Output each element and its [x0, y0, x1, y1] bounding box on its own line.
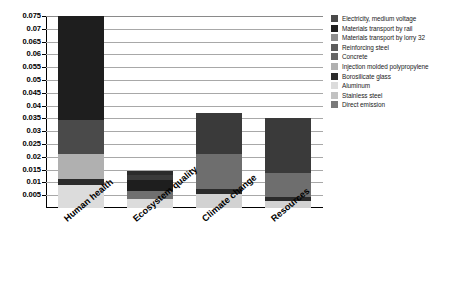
y-axis-tick-mark	[42, 16, 46, 17]
legend-item: Concrete	[331, 52, 457, 62]
legend-swatch-icon	[331, 82, 338, 89]
legend-label: Materials transport by lorry 32	[342, 34, 425, 41]
y-axis-tick-mark	[42, 144, 46, 145]
y-axis-tick-label: 0.05	[0, 76, 41, 84]
legend-item: Stainless steel	[331, 90, 457, 100]
legend-label: Materials transport by rail	[342, 25, 412, 32]
legend-label: Borosilicate glass	[342, 73, 391, 80]
bar-segment	[58, 154, 104, 178]
y-axis-tick-label: 0.015	[0, 166, 41, 174]
legend: Electricity, medium voltageMaterials tra…	[331, 14, 457, 109]
y-axis-tick-mark	[42, 67, 46, 68]
legend-item: Direct emission	[331, 100, 457, 110]
y-axis-tick-label: 0.055	[0, 63, 41, 71]
y-axis-tick-mark	[42, 42, 46, 43]
legend-item: Injection molded polypropylene	[331, 62, 457, 72]
y-axis-tick-label: 0.07	[0, 25, 41, 33]
y-axis-tick-label: 0.02	[0, 153, 41, 161]
legend-item: Materials transport by rail	[331, 24, 457, 34]
legend-label: Aluminum	[342, 82, 370, 89]
bar-segment	[127, 171, 173, 175]
y-axis-tick-mark	[42, 80, 46, 81]
y-axis-tick-label: 0.03	[0, 127, 41, 135]
bar-segment	[58, 179, 104, 186]
bar-segment	[196, 154, 242, 189]
legend-swatch-icon	[331, 25, 338, 32]
y-axis-tick-mark	[42, 106, 46, 107]
legend-swatch-icon	[331, 92, 338, 99]
legend-item: Electricity, medium voltage	[331, 14, 457, 24]
y-axis-tick-label: 0.025	[0, 140, 41, 148]
legend-label: Stainless steel	[342, 92, 382, 99]
legend-swatch-icon	[331, 63, 338, 70]
legend-label: Injection molded polypropylene	[342, 63, 429, 70]
y-axis-tick-label: 0.045	[0, 89, 41, 97]
legend-item: Borosilicate glass	[331, 71, 457, 81]
y-axis-tick-mark	[42, 157, 46, 158]
y-axis-tick-mark	[42, 29, 46, 30]
y-axis-tick-mark	[42, 170, 46, 171]
y-axis-tick-mark	[42, 131, 46, 132]
legend-item: Aluminum	[331, 81, 457, 91]
legend-swatch-icon	[331, 73, 338, 80]
bar-segment	[265, 118, 311, 173]
y-axis-tick-label: 0.075	[0, 12, 41, 20]
legend-item: Reinforcing steel	[331, 43, 457, 53]
y-axis-tick-label: 0.04	[0, 102, 41, 110]
legend-swatch-icon	[331, 101, 338, 108]
y-axis-tick-label: 0.005	[0, 191, 41, 199]
y-axis-tick-mark	[42, 118, 46, 119]
legend-swatch-icon	[331, 15, 338, 22]
y-axis-tick-label: 0.01	[0, 178, 41, 186]
bar-segment	[58, 120, 104, 155]
legend-swatch-icon	[331, 53, 338, 60]
bar-stack	[58, 16, 104, 208]
y-axis-tick-label: 0.065	[0, 38, 41, 46]
y-axis-tick-mark	[42, 93, 46, 94]
legend-swatch-icon	[331, 34, 338, 41]
stacked-bar-chart: 0.0050.010.0150.020.0250.030.0350.040.04…	[0, 0, 458, 286]
legend-label: Direct emission	[342, 101, 385, 108]
y-axis-tick-mark	[42, 54, 46, 55]
y-axis-tick-label: 0.035	[0, 114, 41, 122]
y-axis-tick-label: 0.06	[0, 50, 41, 58]
bar-segment	[196, 113, 242, 155]
y-axis-tick-mark	[42, 182, 46, 183]
legend-label: Reinforcing steel	[342, 44, 389, 51]
bar-segment	[127, 175, 173, 180]
bar-segment	[58, 16, 104, 120]
y-axis-tick-mark	[42, 195, 46, 196]
legend-label: Concrete	[342, 53, 368, 60]
legend-item: Materials transport by lorry 32	[331, 33, 457, 43]
legend-swatch-icon	[331, 44, 338, 51]
legend-label: Electricity, medium voltage	[342, 15, 416, 22]
